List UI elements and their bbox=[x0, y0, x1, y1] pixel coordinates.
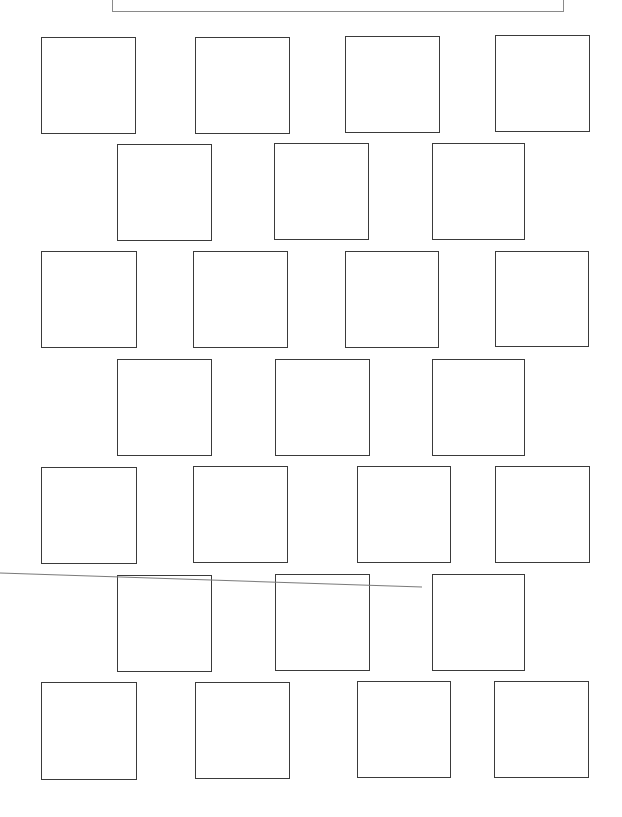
empty-box-r7-c3 bbox=[357, 681, 451, 778]
empty-box-r3-c3 bbox=[345, 251, 439, 348]
empty-box-r4-c1 bbox=[117, 359, 212, 456]
worksheet-page bbox=[0, 0, 622, 817]
empty-box-r1-c2 bbox=[195, 37, 290, 134]
empty-box-r1-c1 bbox=[41, 37, 136, 134]
empty-box-r3-c1 bbox=[41, 251, 137, 348]
empty-box-r6-c1 bbox=[117, 575, 212, 672]
empty-box-r2-c1 bbox=[117, 144, 212, 241]
empty-box-r7-c4 bbox=[494, 681, 589, 778]
empty-box-r2-c2 bbox=[274, 143, 369, 240]
empty-box-r4-c3 bbox=[432, 359, 525, 456]
empty-box-r5-c4 bbox=[495, 466, 590, 563]
empty-box-r1-c3 bbox=[345, 36, 440, 133]
empty-box-r3-c4 bbox=[495, 251, 589, 347]
empty-box-r6-c3 bbox=[432, 574, 525, 671]
empty-box-r5-c1 bbox=[41, 467, 137, 564]
empty-box-r5-c3 bbox=[357, 466, 451, 563]
empty-box-r2-c3 bbox=[432, 143, 525, 240]
empty-box-r1-c4 bbox=[495, 35, 590, 132]
empty-box-r5-c2 bbox=[193, 466, 288, 563]
empty-box-r7-c1 bbox=[41, 682, 137, 780]
header-box bbox=[112, 0, 564, 12]
empty-box-r4-c2 bbox=[275, 359, 370, 456]
empty-box-r6-c2 bbox=[275, 574, 370, 671]
empty-box-r7-c2 bbox=[195, 682, 290, 779]
empty-box-r3-c2 bbox=[193, 251, 288, 348]
